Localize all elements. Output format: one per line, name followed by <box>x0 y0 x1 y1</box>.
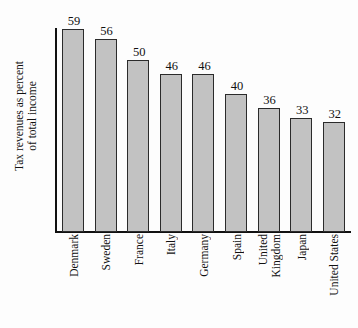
bar[interactable] <box>62 29 84 232</box>
x-axis-tick-label-line: Kingdom <box>270 234 283 277</box>
bar[interactable] <box>290 118 312 232</box>
bar[interactable] <box>258 108 280 232</box>
y-axis-label-line-1: Tax revenues as percent <box>13 61 26 171</box>
bar[interactable] <box>95 39 117 232</box>
bar-value-label: 46 <box>189 60 219 73</box>
bar-value-label: 33 <box>287 104 317 117</box>
bar[interactable] <box>127 60 149 232</box>
bar-slot: 56 <box>92 14 122 232</box>
y-axis-label-line-2: of total income <box>26 61 39 171</box>
x-axis-tick-label: France <box>124 234 154 328</box>
bar-slot: 36 <box>255 14 285 232</box>
x-axis-tick-label: Germany <box>189 234 219 328</box>
x-axis-tick-label: Spain <box>222 234 252 328</box>
bar[interactable] <box>192 74 214 232</box>
bar-slot: 59 <box>59 14 89 232</box>
bar[interactable] <box>160 74 182 232</box>
x-axis-tick-label: Denmark <box>59 234 89 328</box>
x-axis-tick-label-line: United States <box>328 234 341 296</box>
x-axis-tick-label-line: Japan <box>296 234 309 260</box>
bar-slot: 46 <box>189 14 219 232</box>
x-axis-tick-label: United States <box>320 234 350 328</box>
x-axis-category-labels: DenmarkSwedenFranceItalyGermanySpainUnit… <box>57 234 351 328</box>
x-axis-tick-label-line: United <box>257 234 270 265</box>
bar-slot: 46 <box>157 14 187 232</box>
x-axis-tick-label-line: Denmark <box>68 234 81 277</box>
bar-slot: 33 <box>287 14 317 232</box>
x-axis-tick-label: Italy <box>157 234 187 328</box>
bar[interactable] <box>323 122 345 232</box>
x-axis-tick-label: Japan <box>287 234 317 328</box>
bar-value-label: 32 <box>320 108 350 121</box>
bar-value-label: 50 <box>124 46 154 59</box>
x-axis-tick-label: Sweden <box>92 234 122 328</box>
bar-value-label: 40 <box>222 80 252 93</box>
bar-value-label: 36 <box>255 94 285 107</box>
bar-slot: 50 <box>124 14 154 232</box>
bar-slot: 32 <box>320 14 350 232</box>
x-axis-tick-label-line: Germany <box>198 234 211 277</box>
bar-value-label: 56 <box>92 25 122 38</box>
bar[interactable] <box>225 94 247 232</box>
x-axis-tick-label-line: Spain <box>231 234 244 260</box>
x-axis-tick-label-line: Sweden <box>100 234 113 270</box>
bar-chart: Tax revenues as percent of total income … <box>0 0 358 328</box>
bar-value-label: 59 <box>59 15 89 28</box>
x-axis-tick-label-line: Italy <box>165 234 178 255</box>
bar-slot: 40 <box>222 14 252 232</box>
plot-area: 595650464640363332 <box>57 14 351 232</box>
x-axis-tick-label-line: France <box>133 234 146 265</box>
y-axis-label: Tax revenues as percent of total income <box>0 0 52 232</box>
bar-value-label: 46 <box>157 60 187 73</box>
x-axis-tick-label: UnitedKingdom <box>255 234 285 328</box>
